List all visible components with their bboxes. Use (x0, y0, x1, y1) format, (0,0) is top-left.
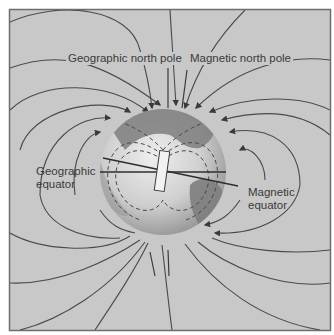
label-magnetic-north-pole: Magnetic north pole (188, 52, 293, 65)
label-geographic-north-pole: Geographic north pole (66, 52, 184, 65)
label-geographic-equator-1: Geographic (34, 165, 97, 178)
label-magnetic-equator-2: equator (246, 199, 289, 212)
label-geographic-equator-2: equator (34, 178, 77, 191)
label-magnetic-equator-1: Magnetic (246, 186, 297, 199)
